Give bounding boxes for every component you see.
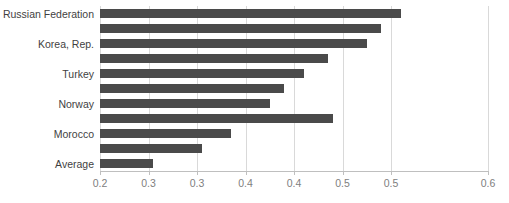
bar[interactable]	[100, 99, 270, 108]
bar-chart: 0.20.30.30.40.40.50.50.6 Russian Federat…	[0, 0, 509, 203]
gridline	[391, 6, 392, 171]
x-axis-tick-label: 0.3	[129, 177, 169, 189]
x-axis-tick-label: 0.5	[371, 177, 411, 189]
bar[interactable]	[100, 39, 367, 48]
bar[interactable]	[100, 159, 153, 168]
x-axis-tick	[100, 171, 101, 175]
x-axis-tick-label: 0.6	[468, 177, 508, 189]
x-axis-tick-label: 0.4	[274, 177, 314, 189]
bar[interactable]	[100, 114, 333, 123]
plot-area	[100, 6, 488, 171]
x-axis-tick	[488, 171, 489, 175]
category-label: Korea, Rep.	[0, 39, 94, 49]
x-axis-tick-label: 0.4	[226, 177, 266, 189]
category-label: Turkey	[0, 69, 94, 79]
chart-title-fragment	[0, 0, 509, 1]
bar[interactable]	[100, 69, 304, 78]
category-label: Average	[0, 159, 94, 169]
gridline	[488, 6, 489, 171]
bar[interactable]	[100, 54, 328, 63]
category-label: Morocco	[0, 129, 94, 139]
x-axis-tick	[343, 171, 344, 175]
category-label: Russian Federation	[0, 9, 94, 19]
x-axis-tick-label: 0.2	[80, 177, 120, 189]
x-axis-tick	[197, 171, 198, 175]
x-axis-tick-label: 0.3	[177, 177, 217, 189]
bar[interactable]	[100, 129, 231, 138]
x-axis-tick	[391, 171, 392, 175]
x-axis-tick-label: 0.5	[323, 177, 363, 189]
category-label: Norway	[0, 99, 94, 109]
x-axis-tick	[294, 171, 295, 175]
x-axis-tick	[246, 171, 247, 175]
bar[interactable]	[100, 9, 401, 18]
bar[interactable]	[100, 24, 381, 33]
bar[interactable]	[100, 144, 202, 153]
bar[interactable]	[100, 84, 284, 93]
x-axis-tick	[149, 171, 150, 175]
